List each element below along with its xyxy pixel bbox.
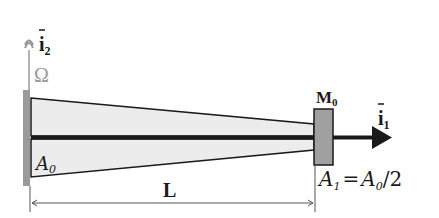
fixed-wall	[23, 90, 30, 186]
label-tip-mass: M0	[316, 88, 338, 108]
beam-diagram: i2 Ω A0 M0 i1 L A1=A0/2	[0, 0, 439, 218]
label-tip-area: A1=A0/2	[317, 167, 402, 193]
label-omega: Ω	[34, 64, 49, 86]
label-length: L	[163, 179, 176, 201]
label-i2: i2	[39, 33, 51, 58]
beam-upper-half	[31, 98, 314, 136]
tip-mass-block	[314, 109, 333, 165]
beam-lower-half	[31, 139, 314, 177]
vertical-axis-arrow-icon	[25, 41, 33, 49]
label-i1: i1	[378, 107, 390, 132]
